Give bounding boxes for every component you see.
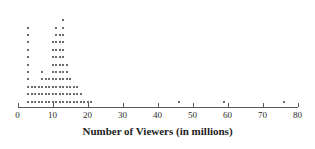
data-dot bbox=[52, 101, 54, 103]
data-dot bbox=[52, 56, 54, 58]
data-dot bbox=[31, 93, 33, 95]
data-dot bbox=[66, 71, 68, 73]
data-dot bbox=[55, 78, 57, 80]
data-dot bbox=[27, 41, 29, 43]
data-dot bbox=[62, 34, 64, 36]
data-dot bbox=[62, 93, 64, 95]
data-dot bbox=[76, 101, 78, 103]
x-axis-tick bbox=[53, 103, 54, 107]
data-dot bbox=[41, 71, 43, 73]
data-dot bbox=[27, 64, 29, 66]
data-dot bbox=[83, 101, 85, 103]
data-dot bbox=[48, 78, 50, 80]
x-axis-tick bbox=[123, 103, 124, 107]
data-dot bbox=[62, 101, 64, 103]
data-dot bbox=[59, 86, 61, 88]
data-dot bbox=[66, 101, 68, 103]
data-dot bbox=[66, 93, 68, 95]
data-dot bbox=[55, 27, 57, 29]
x-axis-tick bbox=[298, 103, 299, 107]
data-dot bbox=[38, 93, 40, 95]
data-dot bbox=[48, 86, 50, 88]
data-dot bbox=[27, 27, 29, 29]
x-axis-tick-label: 60 bbox=[216, 110, 240, 120]
data-dot bbox=[69, 78, 71, 80]
data-dot bbox=[55, 49, 57, 51]
data-dot bbox=[27, 86, 29, 88]
data-dot bbox=[62, 49, 64, 51]
data-dot bbox=[69, 101, 71, 103]
data-dot bbox=[41, 78, 43, 80]
data-dot bbox=[62, 41, 64, 43]
data-dot bbox=[283, 101, 285, 103]
data-dot bbox=[55, 71, 57, 73]
data-dot bbox=[45, 93, 47, 95]
x-axis-tick-label: 80 bbox=[286, 110, 310, 120]
data-dot bbox=[73, 101, 75, 103]
x-axis-tick-label: 20 bbox=[76, 110, 100, 120]
data-dot bbox=[87, 101, 89, 103]
data-dot bbox=[80, 101, 82, 103]
data-dot bbox=[52, 86, 54, 88]
x-axis-tick bbox=[88, 103, 89, 107]
data-dot bbox=[69, 86, 71, 88]
data-dot bbox=[27, 34, 29, 36]
data-dot bbox=[73, 86, 75, 88]
x-axis-tick bbox=[263, 103, 264, 107]
x-axis-tick-label: 0 bbox=[6, 110, 30, 120]
data-dot bbox=[62, 86, 64, 88]
data-dot bbox=[59, 56, 61, 58]
data-dot bbox=[62, 64, 64, 66]
data-dot bbox=[62, 56, 64, 58]
data-dot bbox=[178, 101, 180, 103]
data-dot bbox=[55, 101, 57, 103]
data-dot bbox=[55, 56, 57, 58]
data-dot bbox=[66, 78, 68, 80]
dot-plot-figure: 01020304050607080 Number of Viewers (in … bbox=[0, 0, 315, 149]
data-dot bbox=[76, 93, 78, 95]
data-dot bbox=[27, 78, 29, 80]
data-dot bbox=[62, 78, 64, 80]
data-dot bbox=[55, 41, 57, 43]
x-axis-tick-label: 70 bbox=[251, 110, 275, 120]
data-dot bbox=[55, 34, 57, 36]
data-dot bbox=[66, 86, 68, 88]
x-axis-title: Number of Viewers (in millions) bbox=[0, 125, 315, 137]
data-dot bbox=[27, 93, 29, 95]
data-dot bbox=[34, 101, 36, 103]
data-dot bbox=[80, 93, 82, 95]
data-dot bbox=[59, 41, 61, 43]
x-axis-tick bbox=[18, 103, 19, 107]
data-dot bbox=[48, 93, 50, 95]
data-dot bbox=[41, 86, 43, 88]
data-dot bbox=[59, 71, 61, 73]
data-dot bbox=[27, 56, 29, 58]
data-dot bbox=[52, 49, 54, 51]
data-dot bbox=[62, 19, 64, 21]
data-dot bbox=[66, 64, 68, 66]
x-axis-tick-label: 10 bbox=[41, 110, 65, 120]
x-axis-tick bbox=[193, 103, 194, 107]
data-dot bbox=[27, 49, 29, 51]
data-dot bbox=[76, 86, 78, 88]
x-axis-tick bbox=[228, 103, 229, 107]
data-dot bbox=[55, 93, 57, 95]
data-dot bbox=[41, 93, 43, 95]
data-dot bbox=[52, 93, 54, 95]
data-dot bbox=[59, 78, 61, 80]
data-dot bbox=[59, 93, 61, 95]
data-dot bbox=[59, 49, 61, 51]
data-dot bbox=[38, 86, 40, 88]
data-dot bbox=[45, 101, 47, 103]
data-dot bbox=[52, 71, 54, 73]
data-dot bbox=[59, 34, 61, 36]
x-axis-tick bbox=[158, 103, 159, 107]
data-dot bbox=[62, 27, 64, 29]
data-dot bbox=[69, 93, 71, 95]
x-axis-tick-label: 40 bbox=[146, 110, 170, 120]
data-dot bbox=[59, 101, 61, 103]
data-dot bbox=[45, 86, 47, 88]
data-dot bbox=[223, 101, 225, 103]
x-axis-tick-label: 30 bbox=[111, 110, 135, 120]
data-dot bbox=[27, 71, 29, 73]
